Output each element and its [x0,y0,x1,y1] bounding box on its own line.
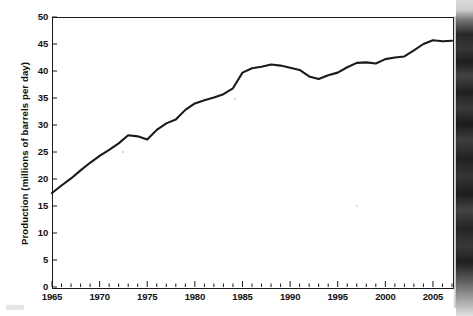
y-tick-label: 30 [22,120,48,130]
scan-speck [234,98,236,100]
x-tick-label: 2005 [411,291,455,302]
y-tick-label: 25 [22,147,48,157]
scan-speck [356,205,358,207]
data-line-world-oil-production [52,40,452,193]
y-tick-label: 15 [22,201,48,211]
y-axis-tick-labels: 05101520253035404550 [18,0,48,316]
y-axis-ticks [52,17,57,287]
chart-screenshot: Production (millions of barrels per day)… [0,0,473,316]
x-tick-label: 1995 [316,291,360,302]
x-tick-label: 1980 [173,291,217,302]
y-tick-label: 40 [22,66,48,76]
y-tick-label: 5 [22,255,48,265]
scan-edge-band [456,0,473,316]
x-tick-label: 1990 [268,291,312,302]
scan-smudge [6,305,24,310]
y-tick-label: 20 [22,174,48,184]
x-axis-tick-labels: 196519701975198019851990199520002005 [0,291,473,307]
plot-svg [52,17,452,287]
y-tick-label: 50 [22,12,48,22]
x-tick-label: 2000 [363,291,407,302]
x-axis-ticks [52,281,452,287]
scan-speck [122,151,124,153]
x-tick-label: 1975 [125,291,169,302]
x-tick-label: 1970 [78,291,122,302]
x-tick-label: 1965 [30,291,74,302]
x-tick-label: 1985 [220,291,264,302]
y-tick-label: 10 [22,228,48,238]
y-tick-label: 35 [22,93,48,103]
y-tick-label: 45 [22,39,48,49]
